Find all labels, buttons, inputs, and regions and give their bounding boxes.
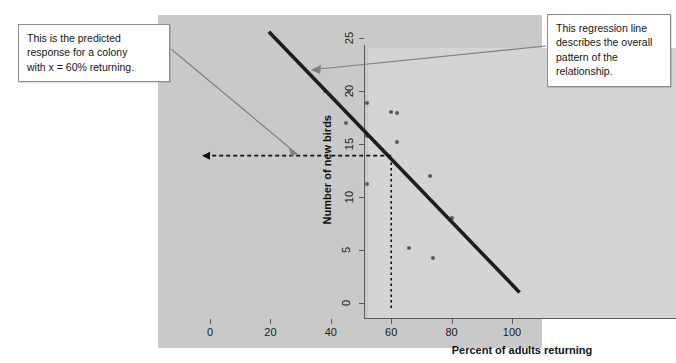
x-tick-label-60: 60 bbox=[385, 326, 397, 338]
y-tick-label-5: 5 bbox=[340, 247, 352, 253]
y-tick-20 bbox=[359, 91, 364, 92]
x-axis-line bbox=[364, 318, 676, 319]
data-point bbox=[450, 216, 454, 220]
x-tick-60 bbox=[391, 319, 392, 324]
y-tick-label-10: 10 bbox=[343, 191, 355, 203]
prediction-arrowhead bbox=[202, 152, 210, 160]
annotation-regression-line-2: describes the overall bbox=[556, 35, 662, 49]
data-point bbox=[344, 121, 348, 125]
x-tick-label-20: 20 bbox=[264, 326, 276, 338]
data-point bbox=[395, 111, 399, 115]
y-tick-5 bbox=[359, 250, 364, 251]
y-tick-25 bbox=[359, 38, 364, 39]
y-tick-label-15: 15 bbox=[343, 138, 355, 150]
annotation-regression-line-3: pattern of the bbox=[556, 50, 662, 64]
figure-panel: 020406080100 0510152025 Percent of adult… bbox=[158, 15, 542, 348]
plot-area bbox=[368, 48, 676, 318]
annotation-predicted-line-1: This is the predicted bbox=[27, 31, 161, 45]
x-tick-label-40: 40 bbox=[325, 326, 337, 338]
data-point bbox=[431, 256, 435, 260]
x-tick-label-0: 0 bbox=[207, 326, 213, 338]
data-point bbox=[365, 182, 369, 186]
data-point bbox=[407, 246, 411, 250]
annotation-regression-line-1: This regression line bbox=[556, 21, 662, 35]
data-point bbox=[347, 89, 351, 93]
annotation-predicted-line-3: with x = 60% returning. bbox=[27, 60, 161, 74]
y-tick-label-25: 25 bbox=[343, 32, 355, 44]
x-axis-title: Percent of adults returning bbox=[368, 344, 676, 356]
data-point bbox=[323, 89, 327, 93]
data-point bbox=[365, 101, 369, 105]
data-point bbox=[395, 140, 399, 144]
y-tick-10 bbox=[359, 197, 364, 198]
y-tick-label-0: 0 bbox=[340, 300, 352, 306]
x-tick-label-80: 80 bbox=[445, 326, 457, 338]
annotation-regression-line: This regression line describes the overa… bbox=[547, 14, 671, 87]
x-tick-100 bbox=[512, 319, 513, 324]
y-tick-15 bbox=[359, 144, 364, 145]
data-point bbox=[389, 110, 393, 114]
annotation-predicted-response: This is the predicted response for a col… bbox=[18, 24, 170, 82]
x-tick-0 bbox=[210, 319, 211, 324]
annotation-predicted-line-2: response for a colony bbox=[27, 45, 161, 59]
annotation-regression-line-4: relationship. bbox=[556, 64, 662, 78]
y-axis-title: Number of new birds bbox=[321, 115, 333, 224]
data-point bbox=[428, 174, 432, 178]
x-tick-40 bbox=[331, 319, 332, 324]
x-tick-80 bbox=[452, 319, 453, 324]
data-point bbox=[365, 134, 369, 138]
x-tick-label-100: 100 bbox=[503, 326, 521, 338]
x-tick-20 bbox=[270, 319, 271, 324]
y-tick-0 bbox=[359, 303, 364, 304]
